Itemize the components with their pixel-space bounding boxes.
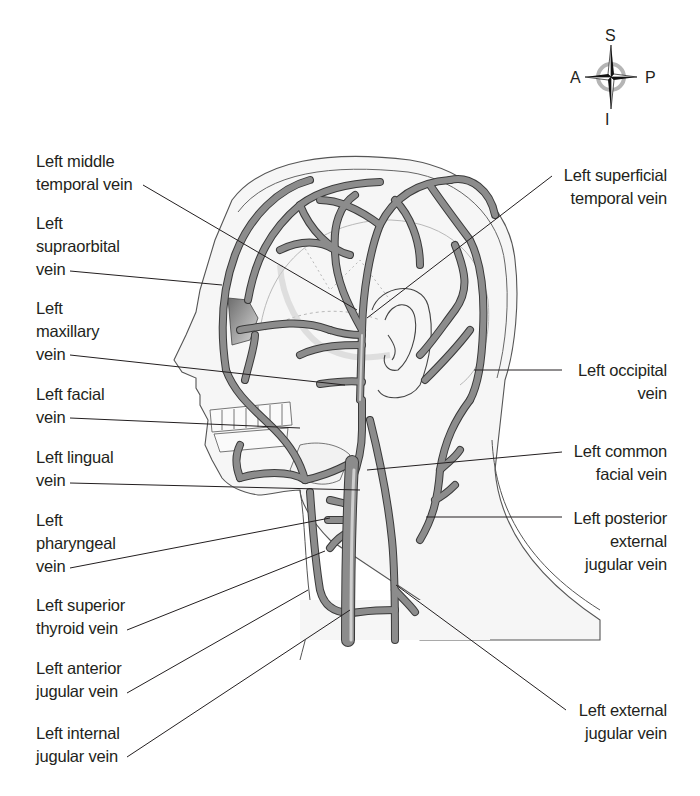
label-line: temporal vein [36, 173, 132, 196]
label-internal-jugular-vein: Left internal jugular vein [36, 722, 120, 768]
label-anterior-jugular-vein: Left anterior jugular vein [36, 657, 121, 703]
label-line: maxillary [36, 320, 99, 343]
label-maxillary-vein: Left maxillary vein [36, 297, 99, 366]
label-line: Left [36, 509, 116, 532]
compass-posterior-label: P [645, 70, 656, 86]
label-line: Left lingual [36, 446, 113, 469]
label-line: Left middle [36, 150, 132, 173]
label-facial-vein: Left facial vein [36, 383, 104, 429]
anatomy-figure: S I A P Left middle temporal vein Left s… [0, 0, 700, 796]
compass-superior-label: S [605, 28, 616, 44]
label-line: Left internal [36, 722, 120, 745]
label-line: Left [36, 212, 120, 235]
label-lingual-vein: Left lingual vein [36, 446, 113, 492]
label-superficial-temporal-vein: Left superficial temporal vein [564, 164, 667, 210]
compass-anterior-label: A [570, 70, 581, 86]
label-posterior-external-jugular-vein: Left posterior external jugular vein [573, 507, 667, 576]
label-line: thyroid vein [36, 617, 125, 640]
label-line: Left occipital [578, 359, 667, 382]
label-line: vein [578, 382, 667, 405]
compass-inferior-label: I [605, 112, 609, 128]
label-line: external [573, 530, 667, 553]
label-common-facial-vein: Left common facial vein [574, 440, 667, 486]
label-superior-thyroid-vein: Left superior thyroid vein [36, 594, 125, 640]
label-line: vein [36, 555, 116, 578]
label-pharyngeal-vein: Left pharyngeal vein [36, 509, 116, 578]
label-external-jugular-vein: Left external jugular vein [579, 699, 667, 745]
label-middle-temporal-vein: Left middle temporal vein [36, 150, 132, 196]
label-line: vein [36, 406, 104, 429]
label-line: vein [36, 343, 99, 366]
orientation-compass-icon [585, 45, 637, 109]
label-supraorbital-vein: Left supraorbital vein [36, 212, 120, 281]
label-line: Left facial [36, 383, 104, 406]
label-line: Left posterior [573, 507, 667, 530]
label-line: jugular vein [36, 745, 120, 768]
label-line: jugular vein [36, 680, 121, 703]
label-line: supraorbital [36, 235, 120, 258]
label-line: Left external [579, 699, 667, 722]
label-line: facial vein [574, 463, 667, 486]
label-line: vein [36, 469, 113, 492]
label-line: Left anterior [36, 657, 121, 680]
label-line: Left common [574, 440, 667, 463]
label-line: jugular vein [579, 722, 667, 745]
label-occipital-vein: Left occipital vein [578, 359, 667, 405]
label-line: pharyngeal [36, 532, 116, 555]
label-line: Left superficial [564, 164, 667, 187]
label-line: Left [36, 297, 99, 320]
label-line: Left superior [36, 594, 125, 617]
label-line: vein [36, 258, 120, 281]
label-line: temporal vein [564, 187, 667, 210]
label-line: jugular vein [573, 553, 667, 576]
